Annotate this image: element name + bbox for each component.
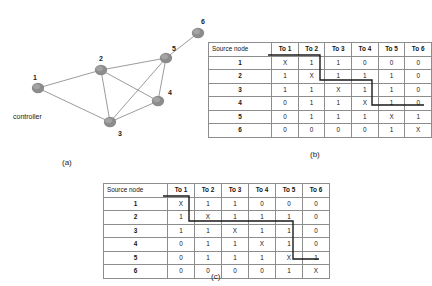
matrix-b-table: Source nodeTo 1To 2To 3To 4To 5To 6 1X11… [208,42,432,138]
caption-a: (a) [62,158,72,167]
matrix-cell-1-4: 0 [249,197,276,211]
graph-node-highlight-4 [153,97,160,102]
col-header-to-3: To 3 [325,43,352,57]
matrix-cell-3-4: 1 [352,83,379,97]
matrix-row: 4011X10 [104,238,330,252]
matrix-cell-5-1: 0 [168,251,195,265]
graph-edge-2-3 [101,70,110,122]
col-header-to-2: To 2 [195,184,222,198]
matrix-c-body: 1X1100021X1110311X1104011X1050111X160000… [104,197,330,278]
matrix-cell-3-2: 1 [298,83,325,97]
row-header-source-3: 3 [104,224,168,238]
matrix-cell-1-1: X [168,197,195,211]
graph-node-label-1: 1 [33,74,37,81]
graph-edge-2-4 [101,70,158,101]
matrix-cell-5-2: 1 [298,110,325,124]
matrix-cell-3-5: 1 [378,83,405,97]
matrix-cell-5-5: X [276,251,303,265]
graph-edge-5-6 [166,33,198,58]
row-header-source-3: 3 [209,83,272,97]
row-header-source-2: 2 [104,211,168,225]
col-header-source-node: Source node [209,43,272,57]
matrix-cell-3-6: 0 [303,224,330,238]
matrix-cell-2-2: X [298,70,325,84]
matrix-cell-1-6: 0 [405,56,432,70]
row-header-source-5: 5 [104,251,168,265]
matrix-cell-4-1: 0 [272,97,299,111]
row-header-source-2: 2 [209,70,272,84]
matrix-cell-1-5: 0 [378,56,405,70]
matrix-cell-4-3: 1 [325,97,352,111]
matrix-cell-6-2: 0 [298,124,325,138]
matrix-cell-5-4: 1 [352,110,379,124]
graph-edge-1-2 [38,70,101,88]
col-header-source-node: Source node [104,184,168,198]
graph-node-label-5: 5 [172,45,176,52]
matrix-cell-5-1: 0 [272,110,299,124]
col-header-to-1: To 1 [272,43,299,57]
matrix-cell-5-2: 1 [195,251,222,265]
matrix-cell-4-4: X [249,238,276,252]
matrix-cell-1-4: 0 [352,56,379,70]
matrix-row: 1X11000 [209,56,432,70]
matrix-cell-6-5: 1 [276,265,303,279]
network-graph-panel: 123456 controller [0,0,210,170]
graph-node-label-4: 4 [168,89,172,96]
row-header-source-6: 6 [104,265,168,279]
matrix-cell-3-5: 1 [276,224,303,238]
matrix-cell-2-6: 0 [405,70,432,84]
matrix-cell-6-5: 1 [378,124,405,138]
matrix-cell-1-3: 1 [222,197,249,211]
matrix-row: 21X1110 [209,70,432,84]
col-header-to-4: To 4 [249,184,276,198]
row-header-source-6: 6 [209,124,272,138]
matrix-cell-1-1: X [272,56,299,70]
matrix-cell-5-5: X [378,110,405,124]
matrix-cell-1-6: 0 [303,197,330,211]
matrix-c-table: Source nodeTo 1To 2To 3To 4To 5To 6 1X11… [103,183,330,279]
matrix-cell-3-6: 0 [405,83,432,97]
matrix-cell-6-4: 0 [352,124,379,138]
matrix-cell-4-6: 0 [405,97,432,111]
matrix-cell-1-5: 0 [276,197,303,211]
matrix-cell-4-5: 1 [276,238,303,252]
matrix-row: 1X11000 [104,197,330,211]
matrix-cell-6-6: X [303,265,330,279]
graph-edge-2-5 [101,58,166,70]
matrix-cell-4-4: X [352,97,379,111]
matrix-cell-4-3: 1 [222,238,249,252]
graph-node-highlight-5 [161,54,168,59]
graph-node-highlight-2 [96,66,103,71]
matrix-cell-2-2: X [195,211,222,225]
matrix-cell-3-3: X [325,83,352,97]
matrix-cell-2-4: 1 [249,211,276,225]
matrix-row: 4011X10 [209,97,432,111]
figure-canvas: 123456 controller (a) Source nodeTo 1To … [0,0,432,286]
matrix-cell-6-3: 0 [222,265,249,279]
graph-node-highlight-3 [105,118,112,123]
matrix-row: 21X1110 [104,211,330,225]
matrix-cell-3-4: 1 [249,224,276,238]
matrix-cell-4-2: 1 [195,238,222,252]
graph-edge-3-4 [110,101,158,122]
caption-c: (c) [211,272,220,281]
graph-edge-4-5 [158,58,166,101]
matrix-row: 600001X [209,124,432,138]
matrix-cell-1-2: 1 [298,56,325,70]
col-header-to-5: To 5 [378,43,405,57]
matrix-cell-5-6: 1 [405,110,432,124]
matrix-cell-4-5: 1 [378,97,405,111]
matrix-b-body: 1X1100021X1110311X1104011X1050111X160000… [209,56,432,137]
graph-node-label-6: 6 [201,18,205,25]
matrix-cell-5-4: 1 [249,251,276,265]
matrix-cell-4-2: 1 [298,97,325,111]
matrix-cell-6-6: X [405,124,432,138]
matrix-cell-1-3: 1 [325,56,352,70]
matrix-cell-2-3: 1 [325,70,352,84]
row-header-source-4: 4 [104,238,168,252]
graph-edge-1-3 [38,88,110,122]
matrix-cell-2-1: 1 [168,211,195,225]
matrix-cell-2-3: 1 [222,211,249,225]
matrix-cell-2-1: 1 [272,70,299,84]
matrix-cell-2-6: 0 [303,211,330,225]
